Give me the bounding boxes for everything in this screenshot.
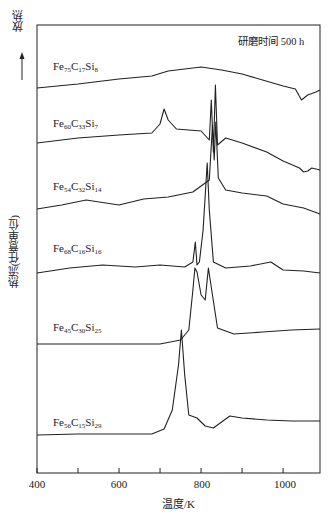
x-tick-400: 400 [29, 478, 46, 490]
milling-time-annotation: 研磨时间 500 h [238, 33, 304, 48]
curve-label-fe68c16si16: Fe68C16Si16 [53, 242, 102, 256]
curve-label-fe60c33si7: Fe60C33Si7 [53, 117, 98, 131]
curve-label-fe54c32si14: Fe54C32Si14 [53, 180, 102, 194]
x-tick-1000: 1000 [274, 478, 296, 490]
x-tick-800: 800 [194, 478, 211, 490]
curve-label-fe56c15si29: Fe56C15Si29 [53, 416, 102, 430]
x-axis-ticks [37, 468, 283, 473]
y-axis-label: 热流(任意单位) [6, 215, 20, 288]
exothermic-label: 放热 [10, 10, 24, 32]
curve-label-fe75c17si8: Fe75C17Si8 [53, 60, 98, 74]
x-axis-label: 温度/K [162, 495, 195, 511]
x-tick-600: 600 [111, 478, 128, 490]
exo-arrow [20, 52, 25, 80]
dsc-chart [0, 0, 334, 522]
curve-fe54c32si14 [37, 122, 320, 214]
curve-label-fe45c30si25: Fe45C30Si25 [53, 321, 102, 335]
